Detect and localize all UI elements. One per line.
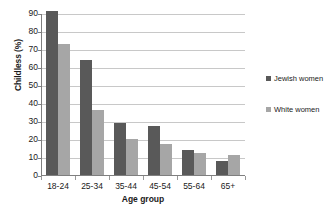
bar-group	[75, 14, 109, 175]
x-tick-label: 35-44	[109, 181, 143, 191]
bar-group	[143, 14, 177, 175]
y-tick-label: 80	[16, 27, 38, 36]
bar	[216, 161, 228, 175]
x-tick-mark	[75, 176, 76, 180]
legend-swatch-icon	[266, 76, 271, 81]
legend-item-jewish-women: Jewish women	[266, 74, 330, 83]
bar	[58, 44, 70, 175]
bar	[228, 155, 240, 175]
x-tick-label: 65+	[211, 181, 245, 191]
bar	[114, 123, 126, 175]
y-axis-tick-labels: 90 80 70 60 50 40 30 20 10 0	[12, 0, 38, 209]
x-tick-mark	[143, 176, 144, 180]
bar	[92, 110, 104, 175]
x-tick-mark	[211, 176, 212, 180]
bar-group	[109, 14, 143, 175]
plot-area	[41, 14, 245, 176]
bar	[160, 144, 172, 175]
legend: Jewish women White women	[266, 74, 330, 136]
bar	[80, 60, 92, 175]
y-tick-label: 30	[16, 117, 38, 126]
bar	[148, 126, 160, 175]
legend-label: Jewish women	[274, 74, 323, 83]
bar	[46, 11, 58, 175]
legend-label: White women	[274, 105, 319, 114]
bar	[182, 150, 194, 175]
bar-group	[211, 14, 245, 175]
legend-item-white-women: White women	[266, 105, 330, 114]
x-tick-mark	[41, 176, 42, 180]
y-tick-label: 70	[16, 45, 38, 54]
y-tick-label: 60	[16, 63, 38, 72]
bar-group	[41, 14, 75, 175]
x-tick-mark	[177, 176, 178, 180]
y-tick-label: 20	[16, 135, 38, 144]
y-tick-label: 90	[16, 9, 38, 18]
bar-group	[177, 14, 211, 175]
y-tick-label: 50	[16, 81, 38, 90]
bar	[194, 153, 206, 175]
x-tick-label: 18-24	[41, 181, 75, 191]
x-tick-mark	[109, 176, 110, 180]
y-tick-label: 0	[16, 171, 38, 180]
bar	[126, 139, 138, 175]
y-tick-label: 10	[16, 153, 38, 162]
x-tick-label: 55-64	[177, 181, 211, 191]
y-tick-label: 40	[16, 99, 38, 108]
x-axis-title: Age group	[41, 194, 245, 204]
x-tick-mark	[245, 176, 246, 180]
legend-swatch-icon	[266, 107, 271, 112]
x-tick-label: 45-54	[143, 181, 177, 191]
x-tick-label: 25-34	[75, 181, 109, 191]
bar-chart: Childless (%) 90 80 70 60 50 40 30 20 10…	[0, 0, 330, 209]
